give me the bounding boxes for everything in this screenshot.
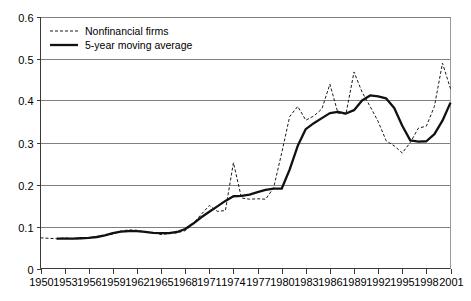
x-tick-label: 2001 — [439, 276, 463, 288]
x-tick-label: 1956 — [77, 276, 101, 288]
x-tick-label: 1998 — [414, 276, 438, 288]
y-tick-label: 0.3 — [18, 138, 33, 150]
chart-legend: Nonfinancial firms5-year moving average — [50, 25, 193, 51]
legend-label-2: 5-year moving average — [85, 39, 193, 51]
x-tick-label: 1989 — [342, 276, 366, 288]
x-tick-label: 1995 — [390, 276, 414, 288]
x-tick-label: 1953 — [53, 276, 77, 288]
series-line-1 — [41, 63, 451, 239]
x-tick-label: 1962 — [125, 276, 149, 288]
y-tick-label: 0.2 — [18, 180, 33, 192]
series-line-2 — [57, 95, 451, 238]
x-tick-label: 1950 — [29, 276, 53, 288]
x-tick-label: 1980 — [270, 276, 294, 288]
x-tick-label: 1986 — [318, 276, 342, 288]
y-tick-label: 0.5 — [18, 54, 33, 66]
x-tick-label: 1983 — [294, 276, 318, 288]
y-tick-label: 0.6 — [18, 12, 33, 24]
x-tick-label: 1971 — [197, 276, 221, 288]
x-tick-label: 1965 — [149, 276, 173, 288]
x-tick-label: 1974 — [221, 276, 245, 288]
data-series — [41, 63, 451, 239]
line-chart: 00.10.20.30.40.50.6 19501953195619591962… — [0, 0, 471, 301]
x-tick-label: 1959 — [101, 276, 125, 288]
y-axis: 00.10.20.30.40.50.6 — [18, 12, 40, 276]
y-tick-label: 0 — [27, 264, 33, 276]
x-axis: 1950195319561959196219651968197119741977… — [29, 269, 463, 288]
x-tick-label: 1968 — [173, 276, 197, 288]
chart-container: 00.10.20.30.40.50.6 19501953195619591962… — [0, 0, 471, 301]
x-tick-label: 1977 — [246, 276, 270, 288]
y-tick-label: 0.4 — [18, 95, 33, 107]
y-tick-label: 0.1 — [18, 222, 33, 234]
legend-label-1: Nonfinancial firms — [85, 25, 168, 37]
x-tick-label: 1992 — [366, 276, 390, 288]
